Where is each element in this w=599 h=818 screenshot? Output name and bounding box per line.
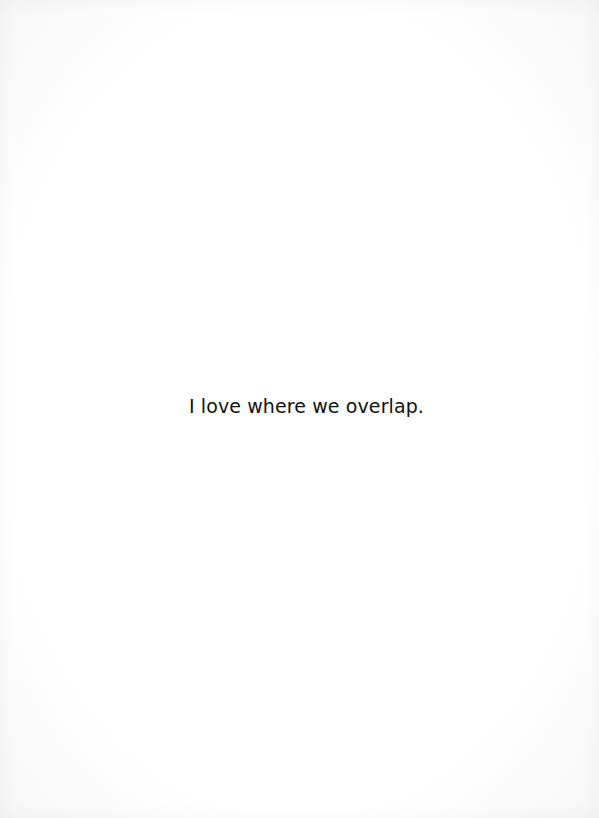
page: I love where we overlap. (0, 0, 599, 818)
quote-text: I love where we overlap. (0, 392, 599, 420)
